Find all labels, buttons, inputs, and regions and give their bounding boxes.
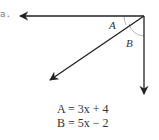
angle-arc-a xyxy=(124,16,126,25)
angle-label-b: B xyxy=(126,37,133,49)
equation-b: B = 5x − 2 xyxy=(57,116,159,131)
angle-label-a: A xyxy=(108,19,116,31)
equation-a: A = 3x + 4 xyxy=(57,102,159,117)
angle-arc-b xyxy=(129,24,144,36)
